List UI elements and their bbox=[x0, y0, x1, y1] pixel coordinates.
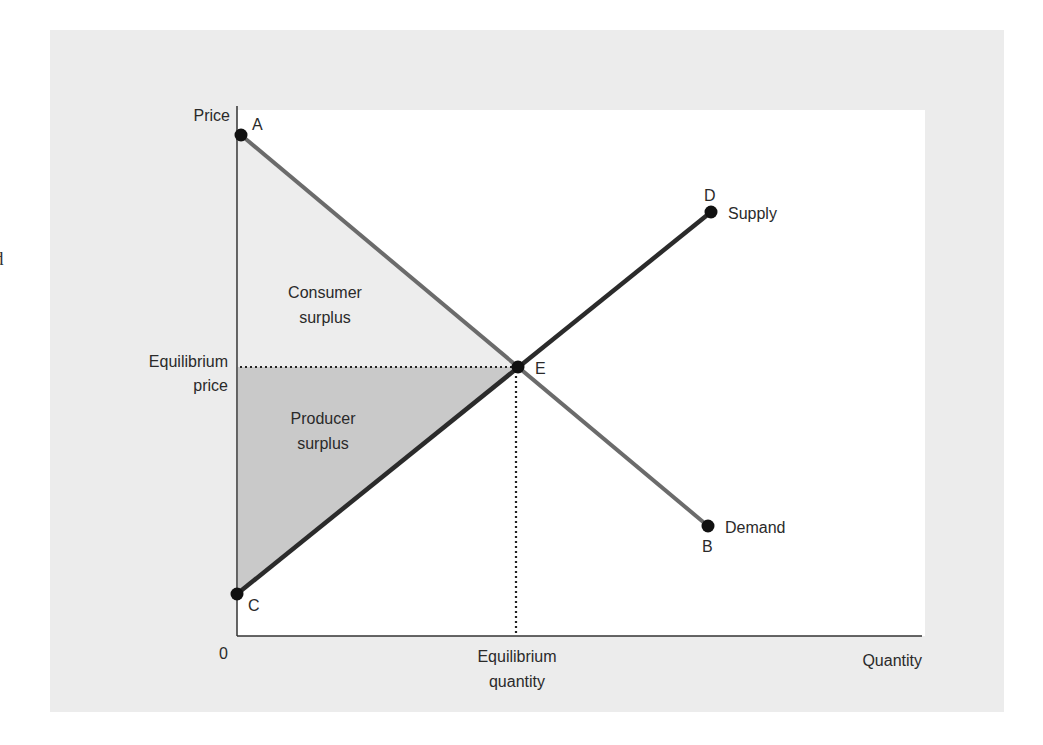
consumer-surplus-label-line2: surplus bbox=[299, 309, 351, 326]
equilibrium-price-label-line2: price bbox=[193, 377, 228, 394]
producer-surplus-label-line2: surplus bbox=[297, 435, 349, 452]
consumer-producer-surplus-figure: d A B C D E Supply Demand bbox=[0, 0, 1043, 745]
point-b-label: B bbox=[702, 538, 713, 555]
demand-label: Demand bbox=[725, 519, 785, 536]
equilibrium-quantity-label-line2: quantity bbox=[489, 673, 545, 690]
point-a-label: A bbox=[252, 116, 263, 133]
equilibrium-quantity-label-line1: Equilibrium bbox=[477, 648, 556, 665]
cropped-text-fragment: d bbox=[0, 248, 4, 270]
point-e-marker bbox=[512, 361, 525, 374]
point-b-marker bbox=[702, 520, 715, 533]
supply-label: Supply bbox=[728, 205, 777, 222]
point-d-label: D bbox=[704, 187, 716, 204]
x-axis-label: Quantity bbox=[862, 652, 922, 669]
point-e-label: E bbox=[535, 360, 546, 377]
point-c-label: C bbox=[248, 597, 260, 614]
y-axis-label: Price bbox=[194, 107, 231, 124]
point-c-marker bbox=[231, 588, 244, 601]
producer-surplus-label-line1: Producer bbox=[291, 410, 357, 427]
origin-label: 0 bbox=[219, 645, 228, 662]
consumer-surplus-label-line1: Consumer bbox=[288, 284, 362, 301]
point-a-marker bbox=[235, 129, 248, 142]
equilibrium-price-label-line1: Equilibrium bbox=[149, 353, 228, 370]
point-d-marker bbox=[705, 206, 718, 219]
